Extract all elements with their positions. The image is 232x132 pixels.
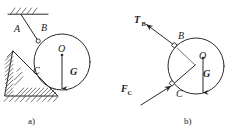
pin-joint-b-a <box>36 39 40 43</box>
inclined-wedge <box>5 51 58 96</box>
caption-panel-a: a) <box>28 116 35 126</box>
label-b-center-o: O <box>199 50 206 61</box>
pin-joint-c-b <box>169 80 175 86</box>
caption-panel-b: b) <box>184 116 192 126</box>
label-b-reaction-subscript: C <box>128 89 133 96</box>
center-dot-a <box>61 54 64 57</box>
label-a-rod: A <box>13 23 21 34</box>
label-a-center-o: O <box>58 43 65 54</box>
tension-vector-tb <box>147 25 175 46</box>
panel-a: A B O C G a) <box>4 8 90 126</box>
ground-hatching <box>4 96 58 101</box>
label-b-contact-c: C <box>176 88 183 99</box>
wedge-hatching <box>5 51 55 96</box>
label-a-point-b: B <box>41 22 47 33</box>
reaction-vector-fc <box>141 86 171 105</box>
radius-oc <box>175 65 196 83</box>
label-a-contact-c: C <box>33 65 40 76</box>
label-a-weight-g: G <box>70 66 78 77</box>
panel-b: T B B O C G F C b) <box>120 14 224 126</box>
ceiling-hatching <box>11 8 38 14</box>
figure-canvas: A B O C G a) T <box>0 0 232 132</box>
radius-ob <box>177 48 194 65</box>
label-b-tension-subscript: B <box>142 20 147 27</box>
rod-ab <box>21 14 38 40</box>
mechanics-figure: A B O C G a) T <box>0 0 232 132</box>
label-b-tension: T <box>134 14 141 25</box>
label-b-point-b: B <box>178 30 184 41</box>
label-b-weight-g: G <box>203 68 211 79</box>
